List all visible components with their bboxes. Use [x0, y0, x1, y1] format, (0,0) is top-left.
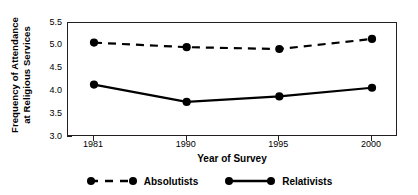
- x-tick-label: 2000: [351, 140, 391, 149]
- x-axis-title: Year of Survey: [67, 153, 397, 164]
- y-tick-label: 3.0: [36, 132, 62, 141]
- data-point: [183, 43, 191, 51]
- data-point: [368, 84, 376, 92]
- series-absolutists: [90, 35, 376, 53]
- legend-swatch-solid-line: [224, 175, 276, 187]
- data-point: [368, 35, 376, 43]
- data-point: [90, 39, 98, 47]
- x-tick-label: 1995: [258, 140, 298, 149]
- y-axis-title: Frequency of Attendance at Religious Ser…: [0, 0, 40, 150]
- series-line: [94, 39, 372, 49]
- y-tick-label: 4.5: [36, 63, 62, 72]
- x-tick-label: 1981: [73, 140, 113, 149]
- plot-area: [67, 22, 397, 136]
- y-tick-label: 3.5: [36, 109, 62, 118]
- legend-label-absolutists: Absolutists: [144, 176, 198, 187]
- y-axis-title-line-2: at Religious Services: [20, 17, 32, 133]
- data-point: [275, 92, 283, 100]
- chart-legend: Absolutists Relativists: [0, 171, 418, 191]
- chart-figure: Frequency of Attendance at Religious Ser…: [0, 0, 418, 195]
- y-tick-label: 5.5: [36, 18, 62, 27]
- legend-swatch-dashed-line: [86, 175, 138, 187]
- data-point: [90, 80, 98, 88]
- data-point: [275, 45, 283, 53]
- legend-item-absolutists[interactable]: Absolutists: [86, 175, 198, 187]
- legend-item-relativists[interactable]: Relativists: [224, 175, 332, 187]
- series-relativists: [90, 80, 376, 106]
- y-tick-label: 5.0: [36, 40, 62, 49]
- legend-label-relativists: Relativists: [282, 176, 332, 187]
- y-tick-label: 4.0: [36, 86, 62, 95]
- series-line: [94, 85, 372, 102]
- y-axis-title-line-1: Frequency of Attendance: [9, 17, 21, 133]
- chart-canvas: [68, 23, 398, 137]
- data-point: [183, 98, 191, 106]
- x-tick-label: 1990: [166, 140, 206, 149]
